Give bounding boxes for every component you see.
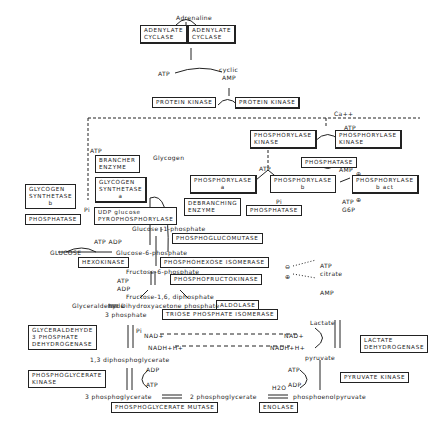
phosphoglycerate-mutase: PHOSPHOGLYCERATE MUTASE [111,402,218,413]
phosphorylase-kinase-active: PHOSPHORYLASE KINASE [335,130,402,149]
adenylate-cyclase-inactive: ADENYLATE CYCLASE [140,25,188,44]
udp-glucose-pyrophosphorylase: UDP glucose PYROPHOSPHORYLASE [94,207,177,225]
glycogen-label: Glycogen [153,154,184,161]
atp-phos-label: ATP [259,165,271,172]
2pg-label: 2 phosphoglycerate [190,393,257,400]
g3p-dehydrogenase: GLYCERALDEHYDE 3 PHOSPHATE DEHYDROGENASE [28,325,97,350]
label: b [29,200,72,207]
phosphatase-syn: PHOSPHATASE [25,214,81,225]
protein-kinase-active: PROTEIN KINASE [235,97,300,109]
calcium-label: Ca++ [334,110,354,117]
g6p-label: G6P [342,206,355,213]
label: UDP glucose [98,209,141,215]
atp-pfk-label: ATP [117,277,129,284]
pep-label: phosphoenolpyruvate [293,393,366,400]
amp-b-label: AMP [339,166,353,173]
protein-kinase-inactive: PROTEIN KINASE [152,97,216,108]
label: BRANCHER [99,157,136,163]
label: PHOSPHOGLYCERATE [32,372,102,378]
nad-right-label: NAD+ [284,332,304,339]
lactate-label: Lactate [310,319,335,326]
label: KINASE [32,379,57,385]
pi-syn-label: Pi [84,206,90,213]
atp-label: ATP [158,70,170,77]
label: ADENYLATE [144,27,183,33]
triose-phosphate-isomerase: TRIOSE PHOSPHATE ISOMERASE [162,309,278,320]
adp-pk2-label: ADP [288,381,302,388]
phosphorylase-a: PHOSPHORYLASE a [190,175,257,194]
label: CYCLASE [144,34,174,40]
label: SYNTHETASE [29,193,72,199]
hexokinase: HEXOKINASE [78,257,129,268]
pi-gapdh-label: Pi [136,327,142,334]
dhap-label: Dihydroxyacetone phosphate [121,302,220,309]
label: KINASE [254,139,279,145]
glucose-6p-label: Glucose-6-phosphate [116,249,187,256]
label: 3 PHOSPHATE [32,334,79,340]
label: b [274,184,332,191]
minus-icon: ⊖ [285,263,290,270]
fructose-16-label: Fructose-1,6, diphosphate [126,293,214,300]
phosphatase-phos: PHOSPHATASE [246,205,302,216]
label: PHOSPHORYLASE [194,177,252,183]
cyclic-label: cyclic [219,66,238,73]
debranching-enzyme: DEBRANCHING ENZYME [184,198,241,216]
nadh-right-label: NADH+H+ [270,344,305,351]
adp-pgk-label: ADP [146,366,160,373]
phosphoglucomutase: PHOSPHOGLUCOMUTASE [172,233,263,244]
label: PYROPHOSPHORYLASE [98,216,173,222]
amp-label: AMP [222,74,236,81]
label: PHOSPHORYLASE [274,177,332,183]
label: PHOSPHORYLASE [356,177,414,183]
nad-left-label: NAD+ [144,332,164,339]
glycogen-synthetase-b: GLYCOGEN SYNTHETASE b [25,184,76,209]
plus-icon: ⊕ [285,273,290,280]
atp-inhibitor-label: ATP [320,262,332,269]
three-phosphate-label: 3 phosphate [105,311,147,318]
plus-icon: ⊕ [356,196,361,203]
label: ADENYLATE [192,27,231,33]
adrenaline-label: Adrenaline [176,14,212,21]
water-label: H2O [272,384,286,391]
atp-adp-hex-label: ATP ADP [94,238,122,245]
brancher-enzyme: BRANCHER ENZYME [95,155,140,173]
atp-brancher-label: ATP [90,147,102,154]
label: DEHYDROGENASE [364,344,424,350]
glycogen-synthetase-a: GLYCOGEN SYNTHETASE a [95,177,147,203]
label: GLYCERALDEHYDE [32,327,93,333]
label: a [99,193,142,200]
label: PHOSPHORYLASE [254,132,312,138]
glucose-label: GLUCOSE [50,249,81,256]
label: KINASE [339,139,364,145]
3pg-label: 3 phosphoglycerate [85,393,152,400]
label: CYCLASE [192,34,222,40]
atp-b-label: ATP [342,198,354,205]
label: GLYCOGEN [29,186,65,192]
phosphohexose-isomerase: PHOSPHOHEXOSE ISOMERASE [160,257,269,268]
pyruvate-label: pyruvate [305,354,335,361]
label: GLYCOGEN [99,179,135,185]
label: ENZYME [188,207,216,213]
glucose-1p-label: Glucose -1-phosphate [132,225,206,232]
label: LACTATE [364,337,393,343]
nadh-left-label: NADH+H+ [148,344,183,351]
phosphofructokinase: PHOSPHOFRUCTOKINASE [170,274,262,285]
pyruvate-kinase: PYRUVATE KINASE [340,372,409,383]
bpg-label: 1,3 diphosphoglycerate [90,356,170,363]
atp-pk2-label: ATP [288,366,300,373]
label: PHOSPHORYLASE [339,132,397,138]
phosphoglycerate-kinase: PHOSPHOGLYCERATE KINASE [28,370,106,388]
atp-pgk-label: ATP [146,381,158,388]
lactate-dehydrogenase: LACTATE DEHYDROGENASE [360,335,428,353]
label: b act [356,184,414,191]
amp-activator-label: AMP [320,289,334,296]
citrate-label: citrate [320,270,342,277]
adp-pfk-label: ADP [117,285,131,292]
phosphorylase-b-activated: PHOSPHORYLASE b act [352,175,419,194]
phosphorylase-b: PHOSPHORYLASE b [270,175,336,193]
phosphorylase-kinase-inactive: PHOSPHORYLASE KINASE [250,130,317,149]
enolase: ENOLASE [259,402,298,413]
glyceraldehyde-label: Glyceraldehyde [72,302,125,309]
label: a [194,184,252,191]
adenylate-cyclase-active: ADENYLATE CYCLASE [188,25,236,44]
